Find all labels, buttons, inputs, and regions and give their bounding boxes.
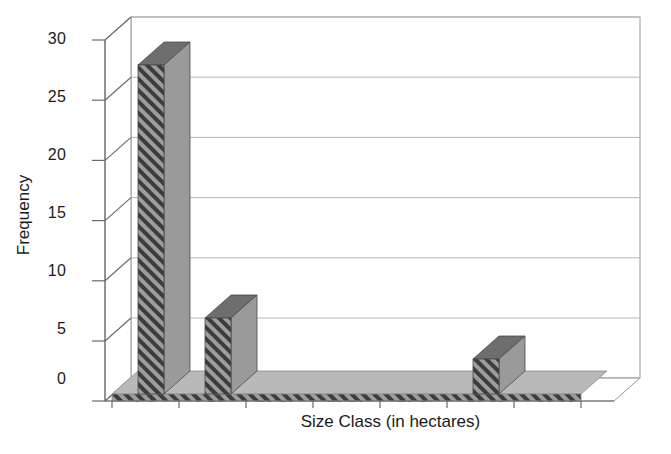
floor-baseline-slab <box>112 371 607 401</box>
chart-container: Frequency Size Class (in hectares) 30 25… <box>0 0 671 454</box>
bar-0-5 <box>138 42 190 394</box>
x-axis-ticks <box>105 401 614 408</box>
chart-plot-area <box>0 0 671 454</box>
